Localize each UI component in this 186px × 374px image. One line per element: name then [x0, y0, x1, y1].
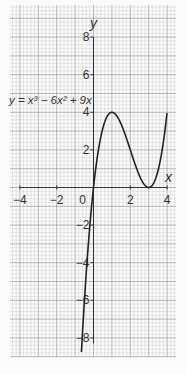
x-tick-label: 2	[127, 193, 134, 207]
y-tick-label: 8	[83, 30, 90, 44]
equation-label: y = x³ − 6x² + 9x	[8, 94, 93, 106]
y-tick-label: 6	[83, 68, 90, 82]
y-tick-label: 2	[83, 143, 90, 157]
x-tick-label: 0	[79, 193, 86, 207]
x-tick-label: 4	[164, 193, 171, 207]
y-tick-label: −6	[76, 293, 90, 307]
x-axis-label: x	[164, 169, 173, 185]
y-tick-label: 4	[83, 105, 90, 119]
x-tick-label: −4	[13, 193, 27, 207]
y-axis-label: y	[89, 15, 98, 31]
y-tick-label: −2	[76, 218, 90, 232]
cubic-function-graph: −4−20248642−2−4−6−8 y = x³ − 6x² + 9x x …	[0, 0, 186, 374]
x-tick-label: −2	[50, 193, 64, 207]
